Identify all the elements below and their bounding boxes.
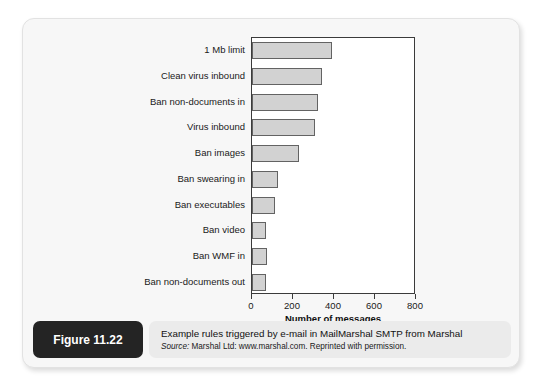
x-tick-mark xyxy=(292,294,293,299)
x-tick-label: 800 xyxy=(407,300,423,311)
bar-row xyxy=(252,197,416,214)
figure-caption-bar: Figure 11.22 Example rules triggered by … xyxy=(33,321,511,358)
bar-row xyxy=(252,119,416,136)
bar xyxy=(252,222,266,239)
x-tick-mark xyxy=(415,294,416,299)
bar-row xyxy=(252,145,416,162)
x-tick-label: 0 xyxy=(248,300,253,311)
x-tick-label: 400 xyxy=(325,300,341,311)
bar-row xyxy=(252,248,416,265)
bar xyxy=(252,94,318,111)
category-label: Ban non-documents out xyxy=(23,276,245,287)
bar-chart: 1 Mb limitClean virus inboundBan non-doc… xyxy=(23,19,521,315)
category-label: Ban WMF in xyxy=(23,250,245,261)
category-label: Virus inbound xyxy=(23,121,245,132)
caption-source: Source: Marshal Ltd: www.marshal.com. Re… xyxy=(161,341,501,352)
category-label: Ban video xyxy=(23,224,245,235)
bar-row xyxy=(252,222,416,239)
category-label: Clean virus inbound xyxy=(23,70,245,81)
category-label: Ban non-documents in xyxy=(23,96,245,107)
bar xyxy=(252,145,299,162)
bar-row xyxy=(252,94,416,111)
category-label: Ban executables xyxy=(23,199,245,210)
caption-panel: Example rules triggered by e-mail in Mai… xyxy=(149,321,511,358)
bar xyxy=(252,42,332,59)
bar-row xyxy=(252,274,416,291)
bar-row xyxy=(252,171,416,188)
bar-row xyxy=(252,42,416,59)
x-tick-mark xyxy=(251,294,252,299)
bar-row xyxy=(252,68,416,85)
bars-layer xyxy=(252,38,414,293)
category-axis-labels: 1 Mb limitClean virus inboundBan non-doc… xyxy=(23,37,245,294)
x-tick-label: 200 xyxy=(284,300,300,311)
caption-title: Example rules triggered by e-mail in Mai… xyxy=(161,328,501,340)
bar xyxy=(252,197,275,214)
figure-card: 1 Mb limitClean virus inboundBan non-doc… xyxy=(22,18,520,368)
figure-number-badge: Figure 11.22 xyxy=(33,321,143,358)
x-tick-label: 600 xyxy=(366,300,382,311)
x-tick-mark xyxy=(374,294,375,299)
plot-frame xyxy=(251,37,415,294)
bar xyxy=(252,119,315,136)
category-label: Ban images xyxy=(23,147,245,158)
caption-source-prefix: Source: xyxy=(161,342,189,351)
category-label: 1 Mb limit xyxy=(23,44,245,55)
caption-source-text: Marshal Ltd: www.marshal.com. Reprinted … xyxy=(189,342,406,351)
bar xyxy=(252,248,267,265)
bar xyxy=(252,171,278,188)
x-tick-mark xyxy=(333,294,334,299)
bar xyxy=(252,274,266,291)
category-label: Ban swearing in xyxy=(23,173,245,184)
bar xyxy=(252,68,322,85)
